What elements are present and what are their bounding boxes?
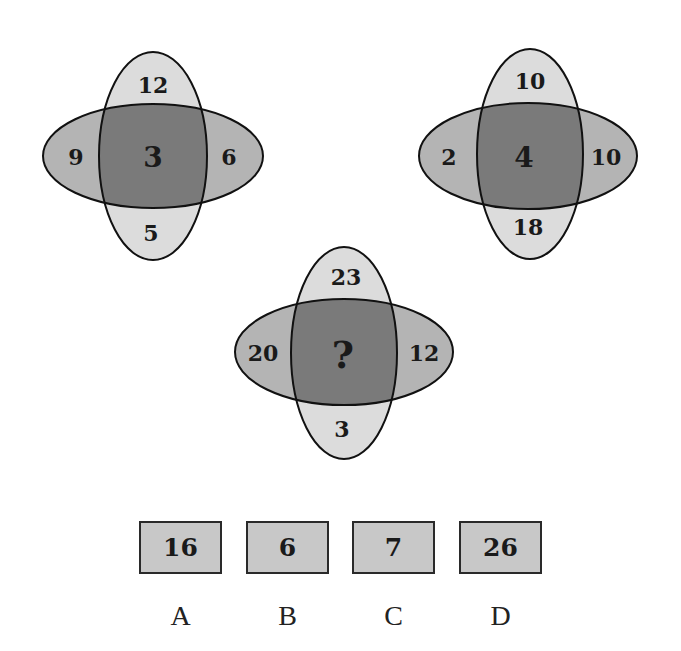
diagram-3: 23 20 ? 12 3	[235, 247, 453, 459]
top-number: 23	[331, 264, 362, 290]
puzzle-diagrams: 12 9 3 6 5 10 2 4 10 18 23 20 ? 12 3	[0, 0, 681, 651]
option-a-box[interactable]: 16	[139, 521, 222, 574]
diagram-1: 12 9 3 6 5	[43, 52, 263, 260]
option-d-box[interactable]: 26	[459, 521, 542, 574]
diagram-2: 10 2 4 10 18	[419, 49, 637, 259]
top-number: 12	[138, 72, 169, 98]
left-number: 20	[248, 340, 279, 366]
center-number: 3	[143, 141, 162, 174]
left-number: 9	[68, 144, 83, 170]
right-number: 12	[409, 340, 440, 366]
center-number: 4	[514, 141, 533, 174]
option-b-box[interactable]: 6	[246, 521, 329, 574]
right-number: 6	[221, 144, 236, 170]
option-b-label: B	[246, 600, 329, 632]
bottom-number: 3	[334, 416, 349, 442]
option-a-label: A	[139, 600, 222, 632]
bottom-number: 18	[513, 214, 544, 240]
option-d-label: D	[459, 600, 542, 632]
center-question: ?	[332, 332, 354, 377]
bottom-number: 5	[143, 220, 158, 246]
top-number: 10	[515, 68, 546, 94]
option-c-label: C	[352, 600, 435, 632]
right-number: 10	[591, 144, 622, 170]
left-number: 2	[441, 144, 456, 170]
option-c-box[interactable]: 7	[352, 521, 435, 574]
